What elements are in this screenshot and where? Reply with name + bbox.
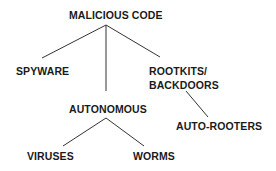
- node-rootkits-line1: ROOTKITS/: [149, 65, 207, 78]
- tree-edges: [0, 0, 276, 171]
- edge-autonomous-to-worms: [106, 118, 144, 146]
- edge-malicious-code-to-rootkits: [106, 25, 160, 57]
- edge-malicious-code-to-spyware: [42, 25, 106, 58]
- node-worms: WORMS: [133, 150, 175, 163]
- malicious-code-taxonomy-diagram: MALICIOUS CODE SPYWARE ROOTKITS/ BACKDOO…: [0, 0, 276, 171]
- node-viruses: VIRUSES: [27, 150, 74, 163]
- node-autonomous: AUTONOMOUS: [69, 103, 147, 116]
- node-backdoors-line2: BACKDOORS: [149, 79, 219, 92]
- node-spyware: SPYWARE: [16, 65, 69, 78]
- edge-rootkits-to-auto-rooters: [186, 91, 208, 117]
- node-auto-rooters: AUTO-ROOTERS: [176, 120, 262, 133]
- edge-autonomous-to-viruses: [63, 118, 106, 146]
- node-malicious-code: MALICIOUS CODE: [69, 9, 163, 22]
